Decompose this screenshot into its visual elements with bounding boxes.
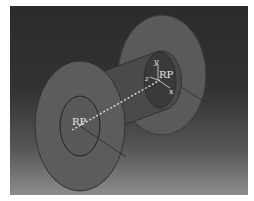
reference-point-rear-label: RP — [159, 69, 174, 80]
model-viewport[interactable]: y x z RP RP — [10, 6, 248, 195]
spool-model: y x z RP RP — [10, 6, 248, 195]
axis-z-label: z — [144, 75, 149, 83]
reference-point-front-label: RP — [72, 116, 87, 127]
axis-x-label: x — [169, 87, 174, 96]
axis-y-label: y — [153, 57, 159, 66]
